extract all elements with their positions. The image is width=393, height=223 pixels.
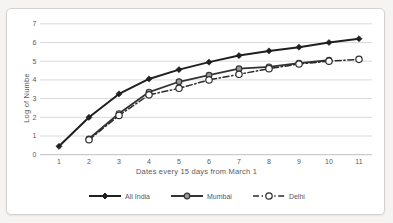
x-tick-label: 8 (267, 158, 271, 165)
x-tick-label: 2 (87, 158, 91, 165)
series-line-all-india (59, 39, 359, 147)
y-tick-label: 3 (33, 95, 37, 102)
plot-area: 012345671234567891011 (0, 0, 393, 223)
x-tick-label: 6 (207, 158, 211, 165)
marker-delhi (296, 61, 302, 67)
legend-label: Mumbai (207, 193, 232, 200)
y-tick-label: 1 (33, 132, 37, 139)
legend-item-all-india: All India (88, 191, 150, 201)
x-tick-label: 7 (237, 158, 241, 165)
marker-delhi (326, 58, 332, 64)
legend-label: Delhi (289, 193, 305, 200)
x-axis-title: Dates every 15 days from March 1 (0, 167, 393, 176)
x-tick-label: 11 (355, 158, 362, 165)
y-tick-label: 7 (33, 20, 37, 27)
marker-delhi (176, 85, 182, 91)
marker-all-india (326, 39, 332, 45)
marker-delhi (236, 71, 242, 77)
legend-key-dash-dot-line (252, 191, 286, 201)
marker-all-india (356, 36, 362, 42)
legend-item-delhi: Delhi (252, 191, 305, 201)
x-tick-label: 9 (297, 158, 301, 165)
x-tick-label: 1 (57, 158, 61, 165)
marker-delhi (116, 112, 122, 118)
legend: All IndiaMumbaiDelhi (0, 191, 393, 201)
marker-all-india (296, 44, 302, 50)
legend-label: All India (125, 193, 150, 200)
marker-delhi (86, 137, 92, 143)
marker-delhi (146, 92, 152, 98)
y-axis-title: Log of Numbe (22, 73, 31, 123)
legend-key-solid-line (170, 191, 204, 201)
x-tick-label: 5 (177, 158, 181, 165)
y-tick-label: 4 (33, 76, 37, 83)
y-tick-label: 2 (33, 114, 37, 121)
y-tick-label: 5 (33, 58, 37, 65)
x-tick-label: 10 (325, 158, 333, 165)
y-tick-label: 6 (33, 39, 37, 46)
marker-delhi (266, 65, 272, 71)
legend-key-solid-line (88, 191, 122, 201)
marker-all-india (266, 48, 272, 54)
marker-delhi (206, 77, 212, 83)
y-tick-label: 0 (33, 151, 37, 158)
marker-all-india (176, 67, 182, 73)
marker-all-india (206, 59, 212, 65)
marker-delhi (356, 56, 362, 62)
x-tick-label: 4 (147, 158, 151, 165)
marker-mumbai (176, 79, 182, 85)
marker-all-india (236, 52, 242, 58)
x-tick-label: 3 (117, 158, 121, 165)
legend-item-mumbai: Mumbai (170, 191, 232, 201)
